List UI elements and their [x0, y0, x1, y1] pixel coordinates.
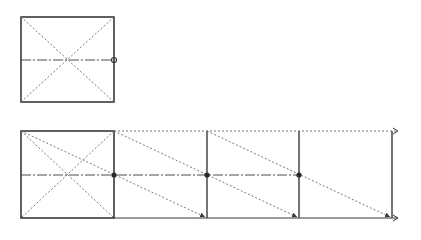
- diagram-canvas: [0, 0, 421, 240]
- top-figure: [21, 17, 117, 102]
- bottom-figure: [21, 131, 398, 218]
- midline-dot-2: [204, 172, 209, 177]
- midline-dot-3: [296, 172, 301, 177]
- geometric-diagram: [0, 0, 421, 240]
- midline-dot-1: [111, 172, 116, 177]
